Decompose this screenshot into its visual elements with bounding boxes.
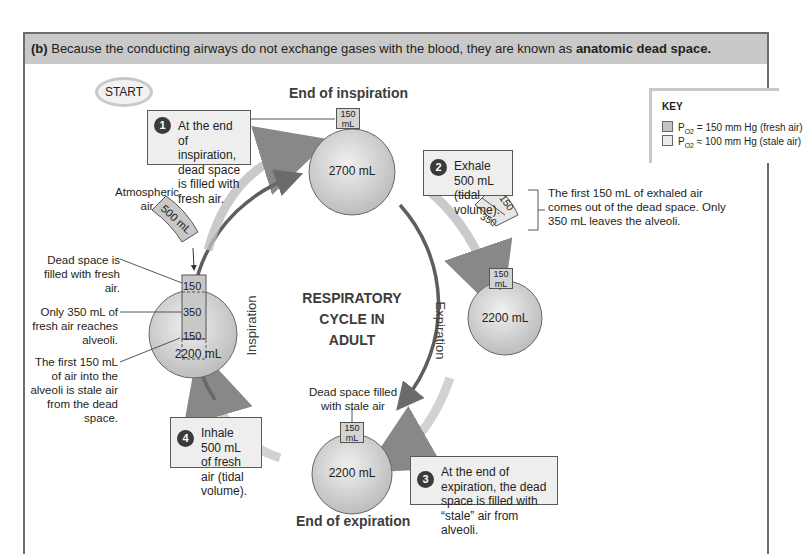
- exhaled-air-note: The first 150 mL of exhaled air comes ou…: [548, 186, 726, 228]
- step-3-number: 3: [417, 471, 434, 488]
- step-4-number: 4: [177, 430, 194, 447]
- lung-top-volume: 2700 mL: [322, 164, 382, 178]
- step-2-callout: 2 Exhale 500 mL (tidal volume).: [423, 150, 513, 196]
- key-title: KEY: [662, 101, 683, 112]
- key-legend: KEY PO2 = 150 mm Hg (fresh air) PO2 ≈ 10…: [649, 88, 779, 163]
- key-item-stale: PO2 ≈ 100 mm Hg (stale air): [662, 135, 801, 149]
- step-4-text: Inhale 500 mL of fresh air (tidal volume…: [201, 426, 247, 498]
- dead-space-bottom: 150 mL: [340, 422, 364, 443]
- dead-space-right: 150 mL: [489, 268, 513, 289]
- start-label: START: [95, 77, 153, 107]
- fresh-air-swatch: [662, 121, 673, 132]
- first-150-note: The first 150 mL of air into the alveoli…: [28, 355, 118, 425]
- step-3-callout: 3 At the end of expiration, the dead spa…: [410, 456, 558, 505]
- end-of-inspiration-title: End of inspiration: [289, 85, 408, 101]
- step-4-callout: 4 Inhale 500 mL of fresh air (tidal volu…: [170, 417, 262, 468]
- cycle-title: RESPIRATORYCYCLE INADULT: [282, 288, 422, 351]
- left-seg-150-bottom: 150: [183, 329, 201, 343]
- expiration-label: Expiration: [433, 302, 448, 360]
- step-2-text: Exhale 500 mL (tidal volume).: [454, 159, 500, 217]
- key-item-fresh: PO2 = 150 mm Hg (fresh air): [662, 121, 803, 135]
- step-1-number: 1: [154, 117, 171, 134]
- dead-space-fresh-note: Dead space is filled with fresh air.: [40, 253, 120, 295]
- dead-space-top: 150 mL: [336, 108, 360, 129]
- lung-bottom-volume: 2200 mL: [322, 466, 382, 480]
- only-350-note: Only 350 mL of fresh air reaches alveoli…: [30, 305, 118, 347]
- end-of-expiration-title: End of expiration: [296, 513, 410, 529]
- step-2-number: 2: [430, 159, 447, 176]
- inspiration-label: Inspiration: [244, 296, 259, 356]
- lung-right-volume: 2200 mL: [475, 311, 535, 325]
- exhale-arrow-bottom: [395, 378, 450, 455]
- stale-air-swatch: [662, 135, 673, 146]
- left-seg-350: 350: [183, 305, 201, 319]
- lung-left-volume: 2200 mL: [168, 347, 228, 361]
- step-1-callout: 1 At the end of inspiration, dead space …: [147, 110, 251, 165]
- left-seg-150-top: 150: [183, 279, 201, 293]
- dead-space-stale-note: Dead space filled with stale air: [308, 385, 398, 413]
